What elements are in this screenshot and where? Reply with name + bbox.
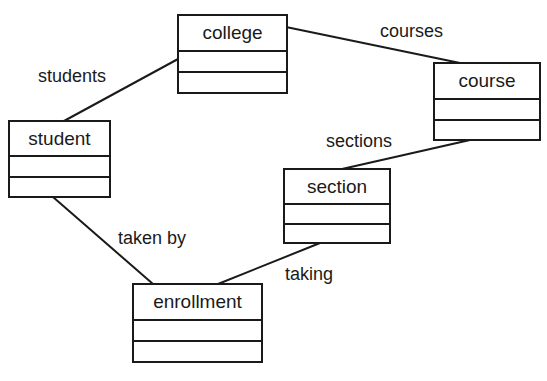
label-taking: taking [285, 264, 333, 285]
operations-compartment [179, 71, 286, 92]
operations-compartment [435, 119, 539, 140]
class-section[interactable]: section [283, 168, 391, 244]
class-name: enrollment [134, 285, 261, 321]
class-name: course [435, 64, 539, 100]
attributes-compartment [179, 52, 286, 71]
label-sections: sections [326, 131, 392, 152]
class-course[interactable]: course [433, 62, 541, 141]
operations-compartment [285, 223, 389, 243]
attributes-compartment [134, 321, 261, 340]
operations-compartment [134, 340, 261, 361]
class-name: section [285, 170, 389, 205]
class-student[interactable]: student [8, 120, 111, 198]
label-students: students [38, 66, 106, 87]
attributes-compartment [285, 205, 389, 223]
attributes-compartment [10, 157, 109, 176]
class-name: college [179, 16, 286, 52]
label-courses: courses [380, 21, 443, 42]
operations-compartment [10, 176, 109, 197]
label-taken-by: taken by [118, 228, 186, 249]
class-name: student [10, 122, 109, 157]
attributes-compartment [435, 100, 539, 119]
class-college[interactable]: college [177, 14, 288, 94]
class-enrollment[interactable]: enrollment [132, 283, 263, 363]
